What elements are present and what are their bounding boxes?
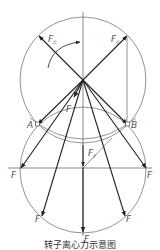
label-f-right-horizontal: F xyxy=(147,170,153,180)
label-f-lower-right: F xyxy=(126,214,132,224)
label-point-b: B xyxy=(131,120,137,130)
label-f-inner: F xyxy=(66,104,72,114)
label-f-lower-left: F xyxy=(35,214,41,224)
rotation-arrow-icon xyxy=(48,42,80,68)
label-fr: Fr xyxy=(88,148,96,159)
force-diagram: Fc Fc A B F Fr F F F F F xyxy=(0,0,160,250)
fc-right-vector xyxy=(83,36,127,80)
point-a-marker xyxy=(36,122,40,126)
figure-caption: 转子离心力示意图 xyxy=(0,238,160,250)
label-fc-left: Fc xyxy=(48,34,57,45)
label-fc-right: Fc xyxy=(111,34,120,45)
label-point-a: A xyxy=(26,120,33,130)
point-b-marker xyxy=(126,122,130,126)
label-f-left-horizontal: F xyxy=(11,170,17,180)
